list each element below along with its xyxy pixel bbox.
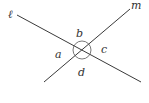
line-m — [44, 9, 130, 82]
line-label-m: m — [131, 0, 141, 12]
line-label-l: ℓ — [8, 8, 13, 21]
angle-label-c: c — [101, 43, 107, 56]
intersecting-lines-diagram: ℓ m a b c d — [0, 0, 149, 103]
angle-label-b: b — [76, 27, 83, 40]
angle-label-d: d — [78, 66, 85, 79]
angle-label-a: a — [55, 48, 62, 61]
